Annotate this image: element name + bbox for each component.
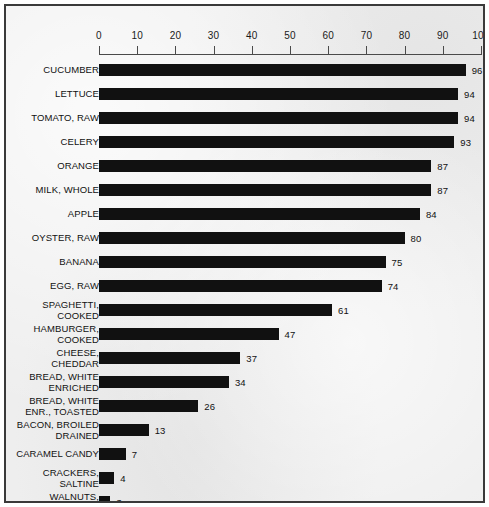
bar-category-label: WALNUTS,ENGLISH [49,492,99,504]
bar-value-label: 74 [388,281,399,292]
bar-row[interactable]: MILK, WHOLE87 [6,178,483,202]
bar-category-label: CUCUMBER [43,65,99,76]
x-axis-tick [214,46,215,55]
x-axis-tick-label: 10 [117,30,157,41]
bar-track: 7 [99,442,483,466]
bar[interactable] [99,280,382,292]
x-axis-tick-label: 40 [232,30,272,41]
bar-track: 4 [99,466,483,490]
bar-track: 37 [99,346,483,370]
bar-value-label: 93 [460,137,471,148]
bar[interactable] [99,376,229,388]
bar[interactable] [99,232,405,244]
bar-row[interactable]: HAMBURGER,COOKED47 [6,322,483,346]
bar-value-label: 94 [464,89,475,100]
bar[interactable] [99,328,279,340]
bar-track: 3 [99,490,483,503]
bar-track: 61 [99,298,483,322]
x-axis-tick-label: 20 [155,30,195,41]
bar-row[interactable]: CELERY93 [6,130,483,154]
bar-row[interactable]: SPAGHETTI,COOKED61 [6,298,483,322]
x-axis: 0102030405060708090100 [6,6,483,58]
x-axis-tick-label: 90 [423,30,463,41]
bar-row[interactable]: ORANGE87 [6,154,483,178]
x-axis-tick [328,46,329,55]
bar-track: 74 [99,274,483,298]
bar-value-label: 13 [155,425,166,436]
bar-track: 94 [99,106,483,130]
bar-row[interactable]: EGG, RAW74 [6,274,483,298]
bar-chart: 0102030405060708090100 CUCUMBER96LETTUCE… [6,6,483,501]
bar-value-label: 26 [204,401,215,412]
bar-category-label: BREAD, WHITEENR., TOASTED [25,396,99,417]
bar[interactable] [99,472,114,484]
bar-category-label: CHEESE,CHEDDAR [51,348,99,369]
bar-category-label: CARAMEL CANDY [16,449,99,460]
bar-track: 93 [99,130,483,154]
bar-row[interactable]: OYSTER, RAW80 [6,226,483,250]
bar[interactable] [99,352,240,364]
bar-value-label: 3 [116,497,121,504]
bar-row[interactable]: BANANA75 [6,250,483,274]
bar-row[interactable]: APPLE84 [6,202,483,226]
bar-value-label: 87 [437,185,448,196]
bar[interactable] [99,496,110,503]
bar-row[interactable]: CRACKERS,SALTINE4 [6,466,483,490]
bar[interactable] [99,64,466,76]
bar-row[interactable]: TOMATO, RAW94 [6,106,483,130]
bar-category-label: TOMATO, RAW [31,113,99,124]
bar-row[interactable]: CUCUMBER96 [6,58,483,82]
bar-row[interactable]: BREAD, WHITEENRICHED34 [6,370,483,394]
x-axis-tick [137,46,138,55]
x-axis-tick-label: 60 [308,30,348,41]
bar-track: 75 [99,250,483,274]
bar-value-label: 7 [132,449,137,460]
x-axis-tick [290,46,291,55]
bar[interactable] [99,400,198,412]
bar-category-label: SPAGHETTI,COOKED [42,300,99,321]
x-axis-tick [252,46,253,55]
x-axis-tick [99,46,100,55]
bar-value-label: 37 [246,353,257,364]
bar[interactable] [99,256,386,268]
x-axis-tick-label: 30 [194,30,234,41]
x-axis-tick-label: 0 [79,30,119,41]
bar-category-label: ORANGE [57,161,99,172]
bar-row[interactable]: LETTUCE94 [6,82,483,106]
bar-track: 96 [99,58,483,82]
bar[interactable] [99,160,431,172]
bar-category-label: APPLE [68,209,99,220]
bar-track: 84 [99,202,483,226]
bar-row[interactable]: BREAD, WHITEENR., TOASTED26 [6,394,483,418]
bar-track: 80 [99,226,483,250]
bar[interactable] [99,304,332,316]
bar[interactable] [99,88,458,100]
bar-track: 13 [99,418,483,442]
bar-category-label: BACON, BROILEDDRAINED [17,420,99,441]
bar-row[interactable]: CARAMEL CANDY7 [6,442,483,466]
bar[interactable] [99,184,431,196]
bar-track: 87 [99,154,483,178]
bar-value-label: 34 [235,377,246,388]
bar[interactable] [99,112,458,124]
bar-row[interactable]: WALNUTS,ENGLISH3 [6,490,483,503]
bar-track: 47 [99,322,483,346]
bar-row[interactable]: BACON, BROILEDDRAINED13 [6,418,483,442]
bar-value-label: 94 [464,113,475,124]
bar-rows: CUCUMBER96LETTUCE94TOMATO, RAW94CELERY93… [6,58,483,503]
bar[interactable] [99,424,149,436]
bar-category-label: EGG, RAW [50,281,99,292]
x-axis-tick [405,46,406,55]
bar-value-label: 96 [472,65,483,76]
bar[interactable] [99,136,454,148]
bar-category-label: MILK, WHOLE [36,185,99,196]
bar-row[interactable]: CHEESE,CHEDDAR37 [6,346,483,370]
bar[interactable] [99,208,420,220]
x-axis-tick-label: 50 [270,30,310,41]
bar-value-label: 75 [392,257,403,268]
bar-value-label: 4 [120,473,125,484]
bar-track: 34 [99,370,483,394]
x-axis-tick-label: 80 [385,30,425,41]
bar[interactable] [99,448,126,460]
bar-track: 94 [99,82,483,106]
